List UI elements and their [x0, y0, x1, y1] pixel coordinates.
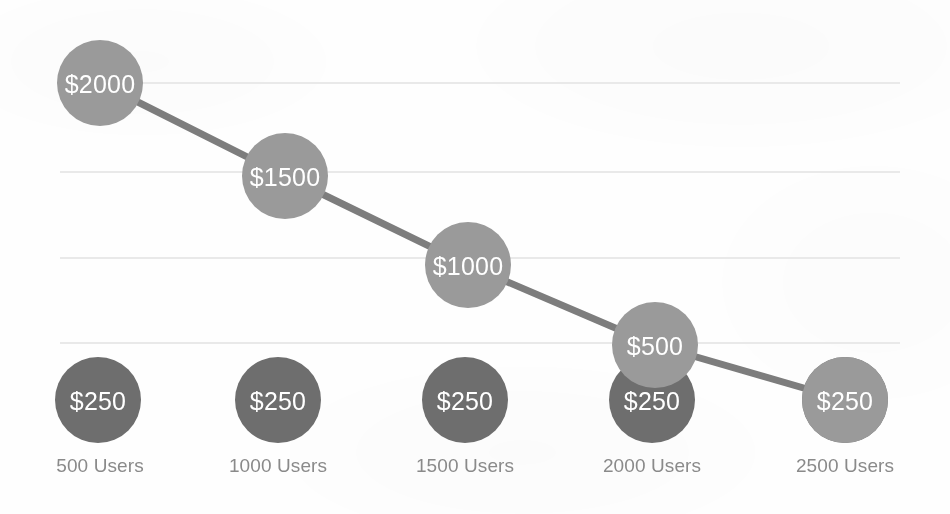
bubble-label-declining-price-1: $1500	[250, 163, 321, 191]
bubble-label-declining-price-0: $2000	[65, 70, 136, 98]
chart-plot-area: $250$250$250$250$250 $2000$1500$1000$500…	[0, 0, 950, 514]
x-axis-label-3: 2000 Users	[603, 455, 701, 477]
bubble-label-flat-price-1: $250	[250, 387, 306, 415]
bubble-label-declining-price-4: $250	[817, 387, 873, 415]
bubble-chart: $250$250$250$250$250 $2000$1500$1000$500…	[0, 0, 950, 514]
bubble-label-flat-price-0: $250	[70, 387, 126, 415]
bubble-label-flat-price-3: $250	[624, 387, 680, 415]
x-axis-label-0: 500 Users	[56, 455, 144, 477]
bubble-label-declining-price-2: $1000	[433, 252, 504, 280]
bubble-label-flat-price-2: $250	[437, 387, 493, 415]
x-axis-tick-labels: 500 Users1000 Users1500 Users2000 Users2…	[0, 455, 950, 495]
x-axis-label-4: 2500 Users	[796, 455, 894, 477]
x-axis-label-1: 1000 Users	[229, 455, 327, 477]
x-axis-label-2: 1500 Users	[416, 455, 514, 477]
bubble-label-declining-price-3: $500	[627, 332, 683, 360]
